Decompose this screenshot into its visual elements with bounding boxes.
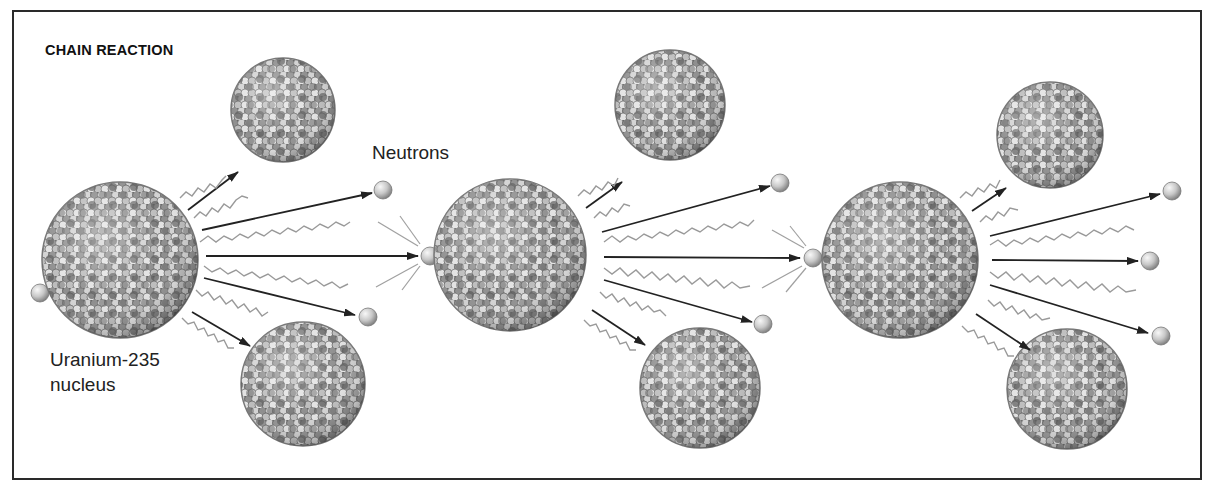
impact-burst (376, 216, 420, 290)
chain-reaction-illustration (0, 0, 1222, 490)
fission-fragment-top (231, 58, 335, 162)
neutron-arrows (972, 188, 1160, 350)
uranium-nucleus (822, 182, 978, 338)
gamma-waves (578, 178, 754, 350)
uranium-nucleus (42, 182, 198, 338)
stage-2 (359, 50, 800, 448)
neutron-out-3 (754, 315, 772, 333)
neutron-out-3 (359, 308, 377, 326)
fission-fragment-top (997, 82, 1103, 188)
neutron-out-1 (374, 181, 392, 199)
neutron-out-1 (1163, 182, 1181, 200)
neutron-out-1 (771, 174, 789, 192)
gamma-waves (180, 176, 350, 348)
incoming-neutron (804, 249, 822, 267)
stage-3 (754, 82, 1181, 449)
neutron-out-3 (1152, 327, 1170, 345)
impact-burst (762, 226, 806, 292)
fission-fragment-bottom (241, 322, 365, 446)
uranium-nucleus (434, 179, 586, 331)
neutron-out-2 (1141, 252, 1159, 270)
stage-1 (31, 58, 418, 446)
fission-fragment-top (615, 50, 725, 160)
fission-fragment-bottom (640, 328, 760, 448)
